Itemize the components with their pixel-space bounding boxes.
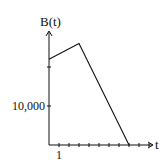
y-axis-label: B(t) [40, 14, 61, 29]
x-tick-label-1: 1 [56, 148, 62, 162]
chart-svg: B(t) t 10,000 1 [0, 0, 164, 168]
y-tick-label-10000: 10,000 [12, 99, 45, 113]
x-axis-label: t [155, 137, 159, 152]
series-line-b-of-t [49, 44, 129, 145]
axes [46, 31, 153, 148]
